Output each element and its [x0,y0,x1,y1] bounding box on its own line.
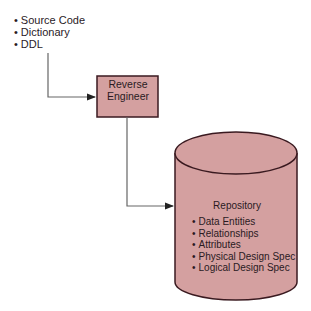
input-item: Dictionary [14,26,85,38]
repository-title: Repository [176,200,298,211]
diagram-canvas: Source Code Dictionary DDL Reverse Engin… [0,0,311,311]
repository-item: Logical Design Spec [192,262,295,274]
repository-cylinder-top [175,132,297,174]
repository-item: Data Entities [192,216,295,228]
reverse-engineer-line2: Engineer [97,90,159,102]
input-item: Source Code [14,14,85,26]
reverse-engineer-label: Reverse Engineer [97,78,159,102]
repository-item: Physical Design Spec [192,251,295,263]
repository-item: Relationships [192,228,295,240]
reverse-engineer-line1: Reverse [97,78,159,90]
arrow-inputs-to-engineer [48,53,95,97]
input-sources-list: Source Code Dictionary DDL [14,14,85,50]
input-item: DDL [14,38,85,50]
repository-item: Attributes [192,239,295,251]
arrow-engineer-to-repository [127,117,173,206]
repository-items-list: Data Entities Relationships Attributes P… [192,216,295,274]
